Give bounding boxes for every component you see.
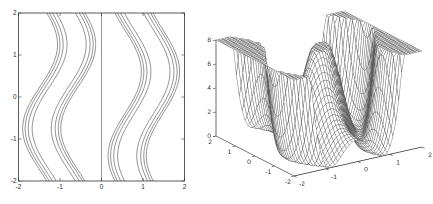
contour-line: [114, 13, 147, 181]
x-tick-label: 2: [183, 183, 187, 190]
surface-mesh-plot: [190, 0, 433, 204]
contour-line: [141, 13, 174, 181]
matlab-figure: -2-1012-2-1012: [0, 0, 433, 204]
x-tick-label: 1: [141, 183, 145, 190]
contour-line: [108, 13, 141, 181]
y-tick-label: -1: [11, 135, 17, 142]
contour-line: [144, 13, 177, 181]
x-tick-label: 0: [100, 183, 104, 190]
y-tick-label: 0: [13, 93, 17, 100]
contour-line: [137, 13, 170, 181]
contour-line: [51, 13, 86, 181]
contour-lines: [23, 13, 180, 181]
contour-line: [55, 13, 90, 181]
y-tick-label: 2: [13, 9, 17, 16]
contour-line: [23, 13, 58, 181]
y-tick-label: -2: [11, 177, 17, 184]
y-tick-label: 1: [13, 51, 17, 58]
x-tick-label: -2: [16, 183, 22, 190]
contour-line: [25, 13, 60, 181]
contour-plot: -2-1012-2-1012: [0, 0, 216, 204]
x-tick-label: -1: [57, 183, 63, 190]
contour-line: [111, 13, 144, 181]
